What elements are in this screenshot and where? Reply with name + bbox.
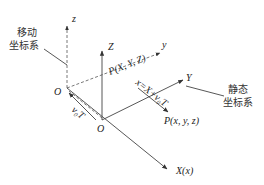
moving-y-axis-label: y (161, 39, 167, 50)
static-frame-label-line1: 静态 (228, 83, 248, 95)
static-Z-axis-label: Z (108, 41, 114, 52)
static-point-label: P(x, y, z) (163, 115, 200, 127)
moving-frame-label-line1: 移动 (17, 26, 37, 38)
static-origin-label: O (97, 123, 104, 134)
moving-z-axis-label: z (71, 13, 76, 24)
moving-frame-leader (44, 49, 67, 65)
moving-frame-label-line2: 坐标系 (9, 40, 39, 51)
static-frame-leader (186, 86, 224, 96)
offset-label: v₀T (70, 104, 88, 122)
moving-origin-label: O (54, 86, 61, 97)
static-Y-axis-label: Y (186, 72, 193, 83)
static-frame-label-line2: 坐标系 (223, 97, 253, 108)
moving-point-label: P(X, Y, Z) (106, 52, 148, 78)
coordinate-frames-diagram: z y O Z Y X(x) O v₀T x=X+v₀T P(X, Y, Z) … (0, 0, 264, 185)
static-X-axis (67, 88, 167, 169)
static-X-axis-label: X(x) (175, 165, 194, 177)
transform-label: x=X+v₀T (133, 76, 171, 109)
